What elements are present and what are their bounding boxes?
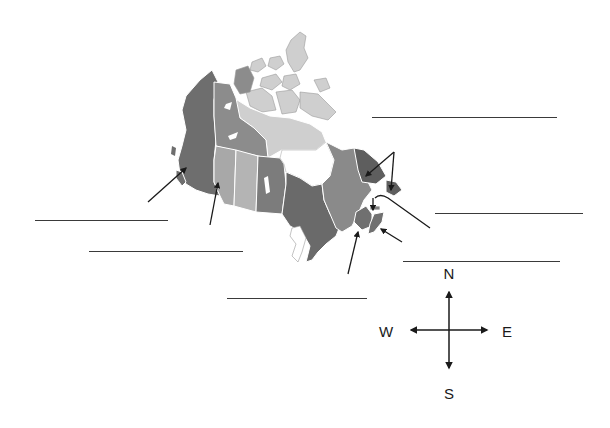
region-pei <box>370 206 380 210</box>
region-newfoundland <box>386 180 402 196</box>
answer-line-2[interactable] <box>35 220 168 221</box>
answer-line-3[interactable] <box>89 251 243 252</box>
arrow-nova-scotia <box>381 229 402 242</box>
region-manitoba <box>256 156 286 214</box>
compass-south-label: S <box>444 385 454 402</box>
compass-north-label: N <box>444 265 455 282</box>
compass-east-label: E <box>502 323 512 340</box>
answer-line-1[interactable] <box>372 117 557 118</box>
answer-line-5[interactable] <box>403 261 560 262</box>
answer-line-4[interactable] <box>435 213 583 214</box>
region-alberta <box>214 146 236 206</box>
arrow-bc <box>148 168 186 202</box>
canada-map-worksheet: N S W E <box>0 0 610 428</box>
arctic-archipelago <box>246 32 336 120</box>
answer-line-6[interactable] <box>227 298 367 299</box>
region-saskatchewan <box>234 150 258 212</box>
compass-west-label: W <box>379 323 393 340</box>
haida-gwaii <box>171 146 176 156</box>
compass-rose <box>411 292 487 368</box>
arrow-new-brunswick <box>348 232 358 274</box>
